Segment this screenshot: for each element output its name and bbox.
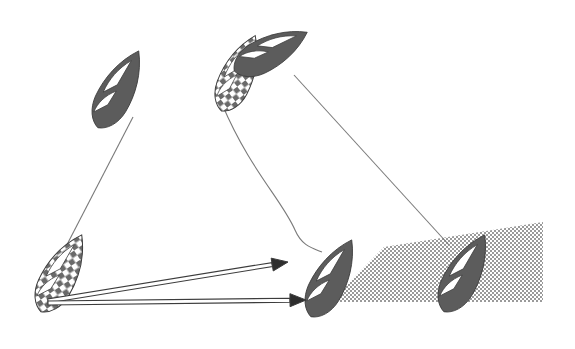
track-curved-middle	[222, 104, 322, 252]
boat-upper-left-dark	[83, 43, 154, 136]
wind-shadow-wedge	[330, 222, 543, 302]
track-straight-right	[294, 75, 449, 245]
boat-lower-left-checkered-hull	[26, 227, 97, 320]
diagram-canvas: Sailboat tactics diagram wind-shadow-wed…	[0, 0, 575, 349]
track-straight-left	[58, 117, 133, 262]
arrow-upper-head	[271, 258, 288, 271]
sailboat-tactics-diagram	[0, 0, 575, 349]
boat-upper-left-dark-hull	[83, 43, 154, 136]
arrow-lower-head	[290, 294, 306, 307]
arrow-upper-shaft	[48, 263, 273, 303]
arrow-upper	[48, 258, 288, 303]
boat-lower-left-checkered	[26, 227, 97, 320]
arrow-lower-shaft	[48, 298, 290, 305]
arrows-layer	[48, 258, 306, 307]
